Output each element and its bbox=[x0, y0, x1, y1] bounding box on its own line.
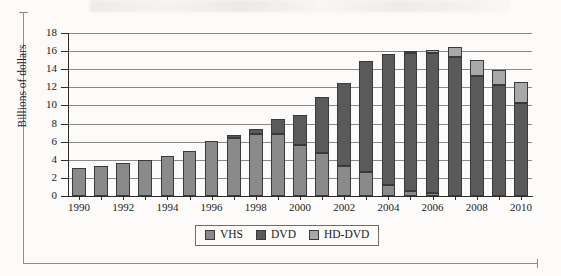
bar-segment-vhs[interactable] bbox=[138, 160, 152, 196]
bar-group[interactable] bbox=[315, 33, 329, 196]
y-axis-tick-label: 12 bbox=[35, 81, 57, 92]
bar-segment-vhs[interactable] bbox=[315, 153, 329, 196]
bar-segment-vhs[interactable] bbox=[94, 166, 108, 196]
bar-segment-hd-dvd[interactable] bbox=[492, 70, 506, 84]
x-axis-tick-label: 1992 bbox=[103, 201, 143, 214]
bar-group[interactable] bbox=[382, 33, 396, 196]
x-axis-tick bbox=[322, 196, 323, 200]
bar-group[interactable] bbox=[448, 33, 462, 196]
x-axis-tick bbox=[388, 196, 389, 200]
x-axis-tick bbox=[278, 196, 279, 200]
bar-segment-dvd[interactable] bbox=[227, 135, 241, 138]
bar-segment-vhs[interactable] bbox=[227, 138, 241, 196]
legend-swatch-icon bbox=[205, 230, 215, 240]
legend-item-vhs[interactable]: VHS bbox=[205, 229, 243, 241]
x-axis-tick bbox=[455, 196, 456, 200]
bar-segment-dvd[interactable] bbox=[382, 54, 396, 185]
bar-group[interactable] bbox=[205, 33, 219, 196]
y-axis-tick bbox=[61, 69, 68, 70]
bar-segment-dvd[interactable] bbox=[426, 53, 440, 193]
bar-group[interactable] bbox=[271, 33, 285, 196]
bar-segment-dvd[interactable] bbox=[315, 97, 329, 153]
x-axis-tick-label: 2008 bbox=[457, 201, 497, 214]
page-frame-left-cap bbox=[19, 12, 28, 13]
bar-group[interactable] bbox=[514, 33, 528, 196]
bar-group[interactable] bbox=[337, 33, 351, 196]
bar-segment-vhs[interactable] bbox=[337, 166, 351, 196]
legend-swatch-icon bbox=[309, 230, 319, 240]
bar-segment-vhs[interactable] bbox=[293, 145, 307, 196]
y-axis-tick-label: 16 bbox=[35, 45, 57, 56]
bar-segment-vhs[interactable] bbox=[72, 168, 86, 196]
bar-group[interactable] bbox=[470, 33, 484, 196]
bar-segment-dvd[interactable] bbox=[359, 61, 373, 172]
x-axis-tick bbox=[521, 196, 522, 200]
x-axis-tick bbox=[366, 196, 367, 200]
bar-segment-dvd[interactable] bbox=[448, 57, 462, 196]
bar-segment-hd-dvd[interactable] bbox=[448, 47, 462, 57]
page-frame-bottom-cap bbox=[537, 259, 538, 268]
y-axis-tick bbox=[61, 33, 68, 34]
page-frame-bottom-rule bbox=[23, 263, 538, 264]
bar-group[interactable] bbox=[94, 33, 108, 196]
y-axis-tick-label: 2 bbox=[35, 172, 57, 183]
bar-group[interactable] bbox=[183, 33, 197, 196]
bar-segment-hd-dvd[interactable] bbox=[470, 60, 484, 76]
bar-segment-vhs[interactable] bbox=[382, 185, 396, 196]
y-axis-tick-label: 0 bbox=[35, 190, 57, 201]
bar-segment-dvd[interactable] bbox=[271, 119, 285, 134]
legend-item-hd-dvd[interactable]: HD-DVD bbox=[309, 229, 369, 241]
bar-segment-vhs[interactable] bbox=[359, 172, 373, 196]
bar-group[interactable] bbox=[72, 33, 86, 196]
bar-group[interactable] bbox=[293, 33, 307, 196]
bar-segment-dvd[interactable] bbox=[293, 115, 307, 145]
x-axis-tick bbox=[167, 196, 168, 200]
x-axis-tick-label: 2010 bbox=[501, 201, 541, 214]
legend-swatch-icon bbox=[256, 230, 266, 240]
bar-group[interactable] bbox=[249, 33, 263, 196]
y-axis-tick bbox=[61, 51, 68, 52]
bar-segment-dvd[interactable] bbox=[470, 76, 484, 196]
bar-group[interactable] bbox=[426, 33, 440, 196]
bar-segment-vhs[interactable] bbox=[271, 134, 285, 196]
y-axis-tick-label: 8 bbox=[35, 118, 57, 129]
legend-item-dvd[interactable]: DVD bbox=[256, 229, 296, 241]
x-axis-tick-label: 2000 bbox=[280, 201, 320, 214]
bar-segment-vhs[interactable] bbox=[116, 163, 130, 196]
bar-segment-hd-dvd[interactable] bbox=[426, 50, 440, 53]
bar-segment-vhs[interactable] bbox=[183, 151, 197, 196]
y-axis-tick bbox=[61, 196, 68, 197]
bar-segment-vhs[interactable] bbox=[249, 134, 263, 196]
bar-segment-hd-dvd[interactable] bbox=[404, 51, 418, 53]
bar-segment-dvd[interactable] bbox=[249, 129, 263, 134]
bar-segment-dvd[interactable] bbox=[514, 103, 528, 196]
x-axis-tick bbox=[79, 196, 80, 200]
bar-segment-dvd[interactable] bbox=[404, 53, 418, 192]
bar-segment-dvd[interactable] bbox=[492, 85, 506, 196]
y-axis-tick-label: 18 bbox=[35, 27, 57, 38]
legend-label: DVD bbox=[271, 229, 296, 241]
x-axis-tick bbox=[101, 196, 102, 200]
bar-segment-hd-dvd[interactable] bbox=[514, 82, 528, 103]
x-axis-tick-label: 2006 bbox=[413, 201, 453, 214]
y-axis-tick-label: 4 bbox=[35, 154, 57, 165]
x-axis-tick-label: 1998 bbox=[236, 201, 276, 214]
x-axis-tick-label: 1996 bbox=[192, 201, 232, 214]
bar-series-area bbox=[68, 33, 532, 196]
bar-group[interactable] bbox=[492, 33, 506, 196]
bar-group[interactable] bbox=[116, 33, 130, 196]
x-axis-tick bbox=[433, 196, 434, 200]
bar-group[interactable] bbox=[404, 33, 418, 196]
chart-page: Billions of dollars 024681012141618 1990… bbox=[0, 0, 561, 276]
x-axis-tick bbox=[123, 196, 124, 200]
bar-group[interactable] bbox=[138, 33, 152, 196]
bar-group[interactable] bbox=[227, 33, 241, 196]
bar-group[interactable] bbox=[359, 33, 373, 196]
x-axis-tick-label: 2004 bbox=[368, 201, 408, 214]
bar-segment-vhs[interactable] bbox=[205, 141, 219, 196]
bar-group[interactable] bbox=[161, 33, 175, 196]
x-axis-tick bbox=[234, 196, 235, 200]
bar-segment-vhs[interactable] bbox=[161, 156, 175, 196]
bar-segment-dvd[interactable] bbox=[337, 83, 351, 166]
x-axis-tick bbox=[499, 196, 500, 200]
